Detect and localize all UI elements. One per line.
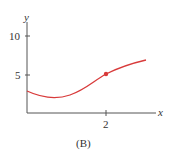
y-tick-label-5: 5 [15, 70, 21, 81]
figure-caption: (B) [76, 138, 91, 149]
highlight-point [104, 72, 108, 76]
y-tick-label-10: 10 [9, 31, 20, 42]
y-axis-label: y [24, 12, 29, 23]
function-curve [27, 60, 146, 98]
x-tick-label-2: 2 [103, 119, 109, 130]
x-axis-label: x [158, 107, 163, 118]
